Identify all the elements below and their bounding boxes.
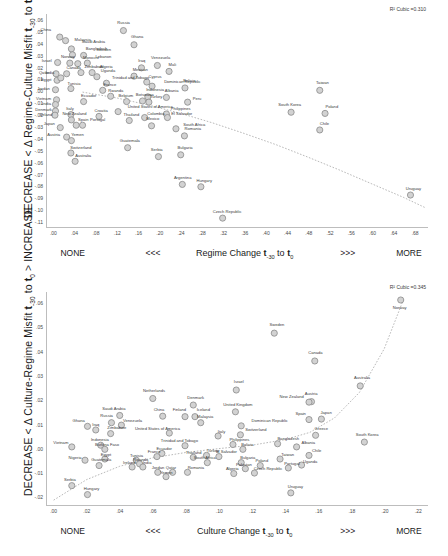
data-point	[313, 432, 319, 438]
data-point-label: Guatemala	[120, 139, 140, 143]
data-point-label: Iraq	[138, 59, 145, 63]
data-point	[317, 127, 323, 133]
data-point-label: Saudi Arabia	[102, 407, 125, 411]
data-point	[115, 109, 121, 115]
x-tick-label: .00	[50, 505, 57, 514]
data-point	[198, 184, 204, 190]
data-point	[52, 112, 58, 118]
data-point-label: Portugal	[90, 118, 105, 122]
data-point-label: Tunisia	[67, 82, 80, 86]
x-tick-label: .12	[249, 505, 256, 514]
data-point-label: Dominican Republic	[252, 419, 288, 423]
data-point	[306, 452, 312, 458]
x-tick-label: .52	[327, 227, 334, 236]
data-point-label: Norway	[393, 306, 407, 310]
data-point	[317, 87, 323, 93]
data-point	[68, 138, 74, 144]
data-point-label: Russia	[117, 21, 130, 25]
x-tick-label: .04	[116, 505, 123, 514]
data-point-label: Saudi Arabia	[82, 40, 105, 44]
data-point	[108, 93, 114, 99]
cubic-fit-line	[83, 92, 425, 207]
x-tick-label: .08	[92, 227, 99, 236]
x-tick-label: .36	[241, 227, 248, 236]
data-point-label: Portugal	[284, 462, 299, 466]
anchor-less-top: <<<	[146, 248, 161, 258]
x-axis-title-top: Regime Change t-30 to t0	[196, 248, 293, 260]
data-point-label: Cyprus	[149, 75, 162, 79]
data-point-label: Serbia	[64, 477, 76, 481]
data-point	[233, 387, 239, 393]
x-tick-label: .44	[284, 227, 291, 236]
data-point	[52, 87, 58, 93]
data-point-label: Ecuador	[81, 94, 96, 98]
x-tick-label: .14	[282, 505, 289, 514]
data-point-label: Chile	[312, 449, 321, 453]
data-point-label: India	[45, 71, 54, 75]
x-tick-label: .64	[390, 227, 397, 236]
data-point	[82, 457, 88, 463]
data-point	[154, 62, 160, 68]
data-point-label: Spain	[78, 118, 88, 122]
data-point-label: Finland	[173, 408, 186, 412]
data-point	[232, 409, 238, 415]
data-point-label: Albania	[165, 89, 179, 93]
data-point-label: Burkina Faso	[95, 443, 119, 447]
data-point	[398, 297, 404, 303]
data-point-label: Taiwan	[281, 453, 294, 457]
data-point-label: Jordan	[37, 87, 50, 91]
data-point-label: Bulgaria	[240, 456, 255, 460]
scatter-plot-culture-change: R² Cubic =0.345 .06.05.04.03.02.01.00-.0…	[46, 292, 428, 506]
data-point	[312, 358, 318, 364]
scatter-plot-regime-change: R² Cubic =0.310 .06.05.04.03.02.01.00-.0…	[46, 14, 428, 228]
x-tick-label: .48	[305, 227, 312, 236]
data-point	[154, 454, 160, 460]
data-point-label: Austria	[305, 392, 318, 396]
x-tick-label: .16	[135, 227, 142, 236]
x-tick-label: .10	[216, 505, 223, 514]
data-point-label: Austria	[47, 133, 60, 137]
y-tick-label: .02	[36, 397, 47, 403]
data-point-label: Venezuela	[123, 419, 142, 423]
data-point-label: Italy	[218, 430, 226, 434]
data-point-label: Albania	[301, 441, 315, 445]
data-point-label: Japan	[44, 122, 55, 126]
r-squared-annotation-bottom: R² Cubic =0.345	[390, 284, 426, 290]
figure-page: DECREASE < Δ Regime-Culture Misfit t-30 …	[0, 0, 448, 556]
data-point-label: Peru	[193, 97, 202, 101]
data-point	[62, 38, 68, 44]
data-point-label: South Korea	[356, 433, 379, 437]
data-point	[57, 34, 63, 40]
data-point	[163, 94, 169, 100]
data-point	[182, 414, 188, 420]
data-point-label: Yemen	[71, 133, 84, 137]
x-tick-label: .22	[415, 505, 422, 514]
x-tick-label: .20	[382, 505, 389, 514]
data-point	[69, 444, 75, 450]
x-axis-title-bottom: Culture Change t-30 to t0	[197, 526, 292, 538]
data-point	[68, 117, 74, 123]
data-point-label: Switzerland	[245, 428, 266, 432]
data-point-label: China	[40, 28, 51, 32]
data-point	[69, 483, 75, 489]
data-point	[96, 462, 102, 468]
data-point-label: Bangladesh	[277, 437, 299, 441]
data-point-label: United Kingdom	[223, 403, 252, 407]
anchor-none-bottom: NONE	[60, 526, 85, 536]
data-point-label: Yemen	[160, 471, 173, 475]
data-point	[93, 427, 99, 433]
x-tick-label: .04	[71, 227, 78, 236]
data-point-label: Vietnam	[53, 441, 68, 445]
data-point	[117, 412, 123, 418]
data-point	[68, 150, 74, 156]
data-point	[407, 192, 413, 198]
data-point	[271, 330, 277, 336]
data-point-label: Romania	[185, 127, 201, 131]
anchor-less-bottom: <<<	[146, 526, 161, 536]
data-point	[357, 383, 363, 389]
data-point	[81, 98, 87, 104]
data-point-label: Mexico	[146, 117, 159, 121]
data-point-label: Uruguay	[288, 485, 303, 489]
data-point-label: Israel	[42, 59, 52, 63]
data-point-label: Spain	[295, 412, 305, 416]
